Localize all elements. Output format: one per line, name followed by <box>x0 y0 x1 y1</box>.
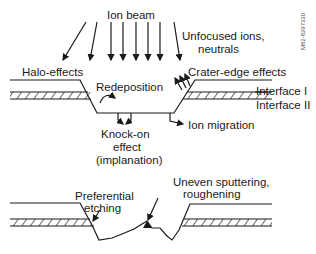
label-unfocused-ions: Unfocused ions, <box>182 30 264 42</box>
label-redeposition: Redeposition <box>96 81 163 93</box>
label-ion-migration: Ion migration <box>188 119 254 131</box>
label-ion-beam: Ion beam <box>107 9 155 21</box>
label-preferential: Preferential <box>75 190 134 202</box>
label-etching: etching <box>84 202 121 214</box>
ion-migration-arrow <box>170 113 183 124</box>
ion-beam-arrows <box>63 22 180 60</box>
top-panel: Ion beam Unfocused ions, neutrals Halo-e… <box>10 9 310 166</box>
label-interface-2: Interface II <box>256 99 310 111</box>
hatched-layer-bottom-left <box>10 219 92 226</box>
bottom-panel: Uneven sputtering, roughening Preferenti… <box>10 176 272 240</box>
redeposition-arrow <box>100 95 115 103</box>
label-effect: effect <box>113 141 142 153</box>
label-interface-1: Interface I <box>256 85 307 97</box>
label-uneven-sputtering: Uneven sputtering, <box>173 176 270 188</box>
label-roughening: roughening <box>183 188 241 200</box>
label-neutrals: neutrals <box>198 43 239 55</box>
label-implantation: (implanation) <box>96 154 163 166</box>
label-halo-effects: Halo-effects <box>22 66 83 78</box>
knock-on-arrow-right <box>126 113 131 124</box>
uneven-sputtering-arrow <box>148 198 158 220</box>
hatched-layer-left <box>10 92 92 99</box>
sputtering-artifacts-diagram: Ion beam Unfocused ions, neutrals Halo-e… <box>0 0 316 254</box>
label-crater-edge: Crater-edge effects <box>188 66 286 78</box>
knock-on-arrow-left <box>118 113 123 124</box>
hatched-layer-bottom-right <box>184 219 272 226</box>
figure-id: M82-8297330 <box>300 12 306 50</box>
label-knock-on: Knock-on <box>101 128 150 140</box>
